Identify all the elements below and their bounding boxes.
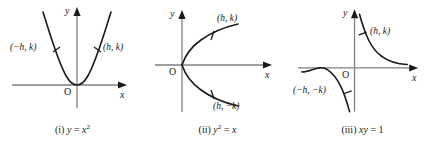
panel-parabola-up: (−h, k) (h, k) O x y (i) y = x2 bbox=[0, 0, 145, 141]
math-figure-graphs: (−h, k) (h, k) O x y (i) y = x2 ( bbox=[0, 0, 436, 141]
caption-number: (ii) bbox=[199, 124, 211, 135]
origin-label: O bbox=[169, 67, 176, 77]
curve-upper-branch bbox=[182, 24, 238, 65]
caption-panel-2: (ii) y2 = x bbox=[145, 123, 290, 135]
y-axis-arrowhead bbox=[73, 7, 80, 16]
panel-parabola-right: (h, k) (h, −k) O x y (ii) y2 = x bbox=[145, 0, 290, 141]
caption-exponent: 2 bbox=[87, 123, 91, 131]
y-axis-arrowhead bbox=[351, 9, 358, 18]
y-axis-label: y bbox=[65, 6, 69, 16]
caption-number: (i) bbox=[55, 124, 64, 135]
caption-panel-3: (iii) xy = 1 bbox=[290, 124, 435, 135]
caption-lhs: y bbox=[67, 124, 71, 135]
panel-hyperbola: (h, k) (−h, −k) O x y (iii) xy = 1 bbox=[290, 0, 435, 141]
curve-lower-branch bbox=[182, 65, 238, 106]
caption-exponent: 2 bbox=[218, 123, 222, 131]
x-axis-arrowhead bbox=[118, 82, 127, 89]
caption-rhs: x bbox=[232, 124, 236, 135]
x-axis-arrowhead bbox=[409, 64, 418, 71]
point-label-lower: (−h, −k) bbox=[293, 86, 326, 96]
x-axis-label: x bbox=[412, 73, 416, 83]
y-axis-arrowhead bbox=[178, 10, 185, 19]
point-label-upper: (h, k) bbox=[370, 27, 390, 37]
plot-parabola-up bbox=[0, 0, 145, 118]
plot-hyperbola bbox=[290, 0, 435, 118]
point-label-right: (h, k) bbox=[103, 43, 123, 53]
caption-rhs: 1 bbox=[379, 124, 384, 135]
x-axis-arrowhead bbox=[263, 62, 272, 69]
y-axis-label: y bbox=[170, 9, 174, 19]
origin-label: O bbox=[64, 87, 71, 97]
caption-lhs: xy bbox=[359, 124, 368, 135]
caption-equals: = bbox=[74, 124, 80, 135]
point-label-lower: (h, −k) bbox=[213, 102, 239, 112]
caption-equals: = bbox=[370, 124, 376, 135]
point-label-upper: (h, k) bbox=[217, 14, 237, 24]
curve-first-quadrant-branch bbox=[360, 14, 408, 64]
caption-equals: = bbox=[224, 124, 230, 135]
caption-number: (iii) bbox=[341, 124, 356, 135]
x-axis-label: x bbox=[120, 90, 124, 100]
caption-panel-1: (i) y = x2 bbox=[0, 123, 145, 135]
tick-mark-lower-point bbox=[344, 91, 352, 94]
point-label-left: (−h, k) bbox=[10, 43, 36, 53]
y-axis-label: y bbox=[343, 8, 347, 18]
origin-label: O bbox=[342, 70, 349, 80]
x-axis-label: x bbox=[265, 70, 269, 80]
